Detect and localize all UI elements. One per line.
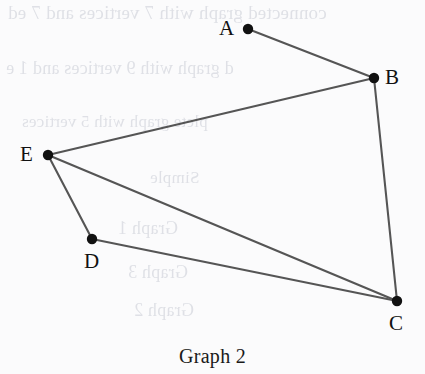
graph-vertex-a [243,24,253,34]
graph-vertex-c [392,296,402,306]
vertex-label-e: E [20,144,33,165]
graph-vertex-d [87,234,97,244]
vertex-label-a: A [219,18,234,39]
graph-edge-ed [48,155,92,239]
graph-edge-ec [48,155,397,301]
graph-edge-be [48,78,374,155]
graph-edge-ab [248,29,374,78]
graph-edge-dc [92,239,397,301]
vertex-label-d: D [84,251,99,272]
graph-edge-bc [374,78,397,301]
graph-vertex-b [369,73,379,83]
figure-caption: Graph 2 [0,345,425,368]
graph-figure: connected graph with 7 vertices and 7 ed… [0,0,425,374]
graph-edges [48,29,397,301]
graph-canvas [0,0,425,374]
vertex-label-b: B [385,67,399,88]
vertex-label-c: C [389,313,403,334]
graph-vertex-e [43,150,53,160]
